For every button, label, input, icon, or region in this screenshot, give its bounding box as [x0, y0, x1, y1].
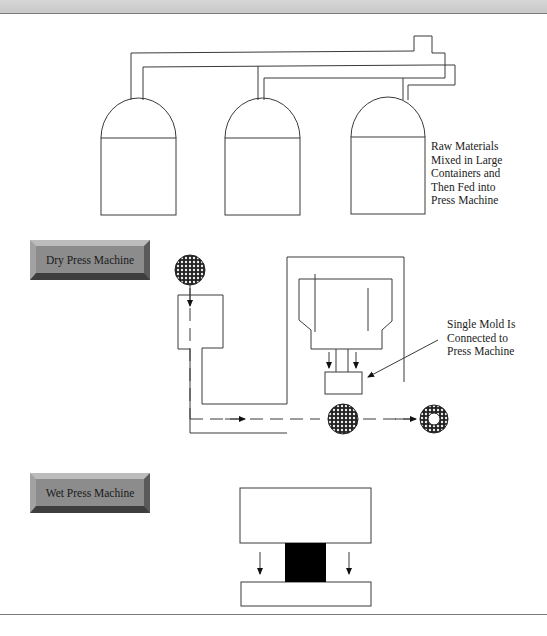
wet-press-label-text: Wet Press Machine	[46, 487, 135, 499]
granule-ball-icon	[175, 255, 205, 285]
mold-pointer-arrow	[368, 340, 438, 377]
tank-1	[101, 98, 176, 215]
caption-line: Press Machine	[431, 194, 502, 208]
caption-line: Press Machine	[447, 345, 515, 359]
mold-box	[325, 372, 362, 394]
press-head	[299, 274, 438, 394]
feed-pipes	[131, 36, 455, 100]
granule-ball-icon	[328, 404, 358, 434]
tank-caption: Raw Materials Mixed in Large Containers …	[431, 140, 502, 208]
tank-2	[225, 98, 300, 215]
caption-line: Containers and	[431, 167, 502, 181]
bottom-divider	[0, 614, 547, 615]
wet-press-mold-block	[285, 543, 326, 582]
caption-line: Single Mold Is	[447, 318, 515, 332]
dry-press-hopper	[178, 257, 404, 433]
caption-line: Then Fed into	[431, 181, 502, 195]
dry-press-label-text: Dry Press Machine	[46, 254, 134, 266]
caption-line: Mixed in Large	[431, 154, 502, 168]
caption-line: Connected to	[447, 332, 515, 346]
mold-caption: Single Mold Is Connected to Press Machin…	[447, 318, 515, 359]
wet-press-machine-label: Wet Press Machine	[30, 473, 150, 513]
tank-3	[351, 97, 425, 214]
caption-line: Raw Materials	[431, 140, 502, 154]
dry-press-machine-label: Dry Press Machine	[30, 240, 150, 280]
